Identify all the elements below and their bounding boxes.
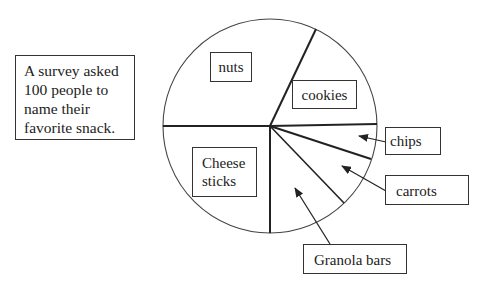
survey-note-box: A survey asked 100 people to name their … xyxy=(15,55,135,140)
label-nuts: nuts xyxy=(210,52,252,82)
label-cookies: cookies xyxy=(292,80,357,109)
label-chips: chips xyxy=(385,127,441,155)
label-cheese-sticks: Cheese sticks xyxy=(192,147,257,197)
label-granola-bars: Granola bars xyxy=(303,244,407,274)
label-carrots: carrots xyxy=(385,175,469,205)
